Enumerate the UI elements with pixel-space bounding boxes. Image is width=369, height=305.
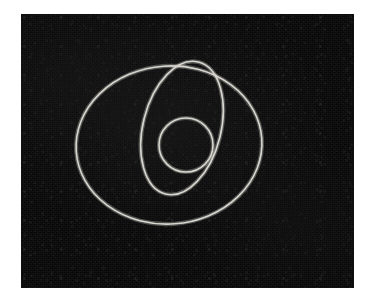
dark-field-photograph [21, 14, 354, 288]
large-circle [71, 60, 268, 231]
circle-overlay-group [21, 14, 354, 288]
large-circle-glow [71, 60, 268, 231]
screenshot-canvas [0, 0, 369, 305]
medium-circle-glow [128, 53, 237, 204]
small-circle [159, 118, 213, 172]
